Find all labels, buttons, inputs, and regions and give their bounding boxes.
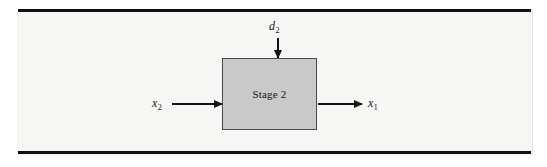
label-input-x2-symbol: x	[152, 96, 157, 110]
figure-canvas: d2 x2 Stage 2 x1	[0, 0, 547, 167]
label-output-x1: x1	[368, 96, 377, 111]
label-output-x1-symbol: x	[368, 96, 373, 110]
rule-top	[18, 9, 531, 12]
label-disturbance-d2: d2	[269, 19, 279, 34]
arrowhead-right-icon	[354, 100, 363, 108]
rule-bottom	[18, 151, 531, 154]
arrow-input-x2	[172, 103, 222, 105]
label-disturbance-d2-symbol: d	[269, 19, 275, 33]
arrow-output-x1	[318, 103, 362, 105]
stage-2-block-label: Stage 2	[252, 88, 286, 100]
label-input-x2-subscript: 2	[158, 103, 162, 112]
label-input-x2: x2	[152, 96, 161, 111]
label-disturbance-d2-subscript: 2	[276, 26, 280, 35]
label-output-x1-subscript: 1	[374, 103, 378, 112]
arrow-disturbance-d2	[277, 38, 279, 58]
stage-2-block: Stage 2	[222, 58, 317, 130]
